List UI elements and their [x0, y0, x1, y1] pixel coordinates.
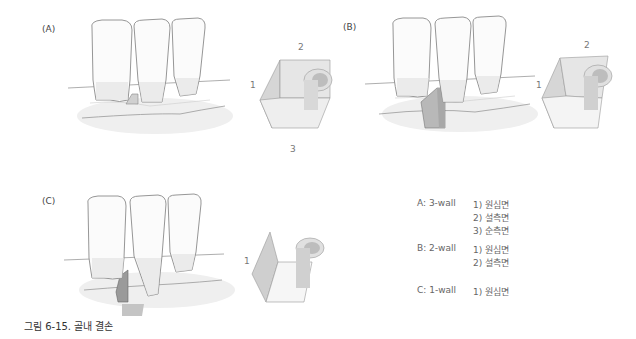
- legend-a-item-2: 2) 설측면: [473, 211, 509, 224]
- panel-b-teeth-illustration: [365, 16, 545, 136]
- legend-c-item-1: 1) 원심면: [473, 285, 509, 298]
- legend-key-b: B: 2-wall: [417, 243, 456, 253]
- panel-c-teeth-illustration: [62, 194, 242, 314]
- figure-caption: 그림 6-15. 골내 결손: [24, 318, 113, 333]
- legend-key-a: A: 3-wall: [417, 198, 456, 208]
- panel-c-label: (C): [42, 196, 55, 206]
- panel-a-teeth-illustration: [60, 18, 240, 138]
- panel-b-wall-2-label: 2: [584, 40, 590, 50]
- panel-a-wall-3-label: 3: [290, 144, 296, 154]
- panel-a-wall-2-label: 2: [298, 42, 304, 52]
- legend-key-c: C: 1-wall: [417, 285, 456, 295]
- panel-a-label: (A): [42, 24, 55, 34]
- panel-b-wall-1-label: 1: [536, 80, 542, 90]
- legend-a-item-1: 1) 원심면: [473, 198, 509, 211]
- panel-a-3-wall-block: [260, 56, 330, 128]
- panel-b-2-wall-block: [542, 54, 608, 128]
- panel-c-wall-1-label: 1: [244, 256, 250, 266]
- legend-a-item-3: 3) 순측면: [473, 224, 509, 237]
- legend-b-item-2: 2) 설측면: [473, 256, 509, 269]
- panel-c-1-wall-block: [252, 232, 324, 302]
- panel-a-wall-1-label: 1: [250, 80, 256, 90]
- legend-b-item-1: 1) 원심면: [473, 243, 509, 256]
- panel-b-label: (B): [343, 22, 356, 32]
